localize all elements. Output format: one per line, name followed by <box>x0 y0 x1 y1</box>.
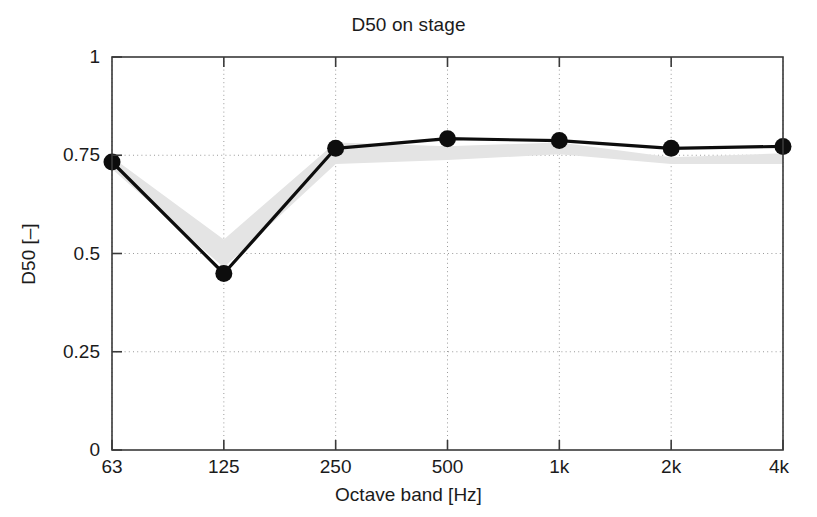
data-point-marker <box>215 265 232 282</box>
xtick-label-250: 250 <box>320 456 352 478</box>
xtick-label-500: 500 <box>432 456 464 478</box>
ytick-label-3: 0.75 <box>8 144 100 166</box>
data-point-marker <box>439 130 456 147</box>
y-axis-title: D50 [–] <box>18 223 40 284</box>
xtick-label-2k: 2k <box>661 456 681 478</box>
data-point-marker <box>551 132 568 149</box>
xtick-label-4k: 4k <box>769 456 789 478</box>
xtick-label-1k: 1k <box>549 456 569 478</box>
ytick-label-1: 0.25 <box>8 341 100 363</box>
xtick-label-63: 63 <box>101 456 122 478</box>
x-axis-title: Octave band [Hz] <box>0 484 817 506</box>
data-point-marker <box>327 140 344 157</box>
ytick-label-4: 1 <box>8 46 100 68</box>
plot-area <box>0 0 817 517</box>
xtick-label-125: 125 <box>208 456 240 478</box>
ytick-label-0: 0 <box>8 439 100 461</box>
chart-figure: D50 on stage <box>0 0 817 517</box>
data-point-marker <box>663 140 680 157</box>
